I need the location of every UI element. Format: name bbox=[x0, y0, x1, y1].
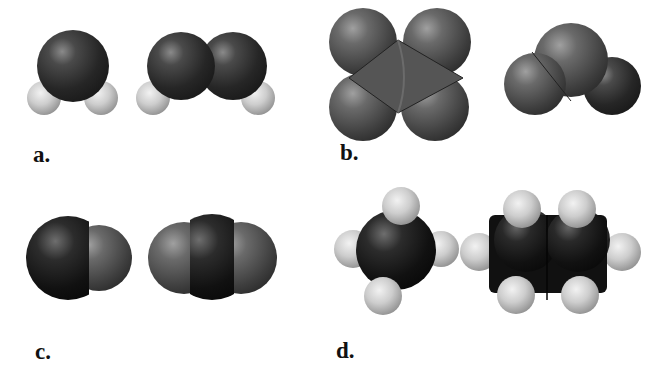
panel-c-model-2 bbox=[148, 214, 277, 300]
small-light-atom bbox=[561, 276, 599, 314]
panel-label-a: a. bbox=[33, 143, 50, 166]
small-light-atom bbox=[364, 277, 402, 315]
large-dark-atom bbox=[37, 30, 109, 102]
panel-b-model-2 bbox=[504, 23, 641, 115]
large-atom bbox=[504, 53, 566, 115]
panel-label-c: c. bbox=[35, 340, 51, 363]
panel-c-model-1 bbox=[26, 216, 132, 300]
panel-b-model-1 bbox=[329, 8, 471, 141]
panel-a-model-1 bbox=[27, 30, 118, 115]
panel-d-model-1 bbox=[334, 187, 459, 315]
panel-label-d: d. bbox=[336, 339, 355, 362]
large-dark-atom bbox=[147, 32, 215, 100]
panel-a-model-2 bbox=[136, 32, 275, 115]
small-light-atom bbox=[497, 276, 535, 314]
small-light-atom bbox=[382, 187, 420, 225]
panel-d-model-2 bbox=[460, 190, 641, 314]
molecular-models-figure: a. b. c. d. bbox=[0, 0, 648, 378]
panel-label-b: b. bbox=[340, 141, 359, 164]
small-light-atom bbox=[503, 190, 541, 228]
small-light-atom bbox=[558, 190, 596, 228]
molecules-canvas bbox=[0, 0, 648, 378]
